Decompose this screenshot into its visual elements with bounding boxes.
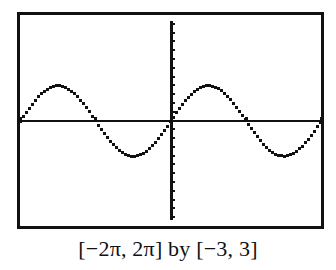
curve-pixel [94,119,97,122]
curve-pixel [61,85,64,88]
curve-pixel [259,139,262,142]
y-tick [172,111,175,113]
curve-pixel [187,96,190,99]
curve-pixel [223,92,226,95]
y-tick [172,163,175,165]
curve-pixel [25,111,28,114]
curve-pixel [121,151,124,154]
curve-pixel [70,90,73,93]
curve-pixel [157,137,160,140]
curve-pixel [253,131,256,134]
curve-pixel [115,146,118,149]
curve-pixel [214,86,217,89]
curve-pixel [193,90,196,93]
curve-pixel [166,125,169,128]
curve-pixel [310,134,313,137]
curve-pixel [79,99,82,102]
y-tick [172,32,175,34]
curve-pixel [55,84,58,87]
curve-pixel [73,92,76,95]
y-tick [172,146,175,148]
curve-pixel [196,88,199,91]
curve-pixel [148,147,151,150]
curve-pixel [265,146,268,149]
curve-pixel [298,147,301,150]
curve-pixel [232,102,235,105]
y-tick [172,102,175,104]
curve-pixel [88,110,91,113]
curve-pixel [67,88,70,91]
curve-pixel [133,155,136,158]
y-tick [172,155,175,157]
curve-pixel [178,107,181,110]
curve-pixel [145,150,148,153]
curve-pixel [151,144,154,147]
graph-plot-area [20,15,321,226]
curve-pixel [295,150,298,153]
curve-pixel [46,88,49,91]
y-tick [172,84,175,86]
y-tick [172,172,175,174]
y-tick [172,137,175,139]
curve-pixel [277,154,280,157]
curve-pixel [313,130,316,133]
curve-pixel [250,127,253,130]
curve-pixel [307,138,310,141]
curve-pixel [244,118,247,121]
curve-pixel [208,84,211,87]
curve-pixel [175,111,178,114]
y-tick [172,58,175,60]
curve-pixel [22,115,25,118]
curve-pixel [190,93,193,96]
curve-pixel [85,106,88,109]
curve-pixel [43,90,46,93]
curve-pixel [199,86,202,89]
curve-pixel [34,99,37,102]
curve-pixel [154,141,157,144]
curve-pixel [172,116,175,119]
curve-pixel [91,115,94,118]
curve-pixel [64,86,67,89]
curve-pixel [184,99,187,102]
curve-pixel [256,135,259,138]
curve-pixel [31,103,34,106]
curve-pixel [58,84,61,87]
curve-pixel [220,89,223,92]
curve-pixel [124,153,127,156]
curve-pixel [229,98,232,101]
curve-pixel [106,136,109,139]
curve-pixel [76,95,79,98]
curve-pixel [268,149,271,152]
curve-pixel [289,153,292,156]
y-tick [172,49,175,51]
curve-pixel [40,92,43,95]
curve-pixel [304,141,307,144]
y-tick [172,23,175,25]
y-tick [172,190,175,192]
curve-pixel [181,103,184,106]
curve-pixel [160,133,163,136]
curve-pixel [247,123,250,126]
calculator-screen-frame [17,12,324,229]
curve-pixel [82,102,85,105]
curve-pixel [163,129,166,132]
window-caption: [−2π, 2π] by [−3, 3] [0,236,336,262]
curve-pixel [130,155,133,158]
y-tick [172,93,175,95]
curve-pixel [283,155,286,158]
y-tick [172,40,175,42]
curve-pixel [238,110,241,113]
curve-pixel [202,85,205,88]
curve-pixel [169,120,172,123]
curve-pixel [319,121,321,124]
curve-pixel [316,125,319,128]
curve-pixel [211,85,214,88]
curve-pixel [118,149,121,152]
curve-pixel [292,152,295,155]
curve-pixel [112,143,115,146]
curve-pixel [286,154,289,157]
curve-pixel [127,154,130,157]
curve-pixel [109,140,112,143]
curve-pixel [280,154,283,157]
curve-pixel [226,95,229,98]
